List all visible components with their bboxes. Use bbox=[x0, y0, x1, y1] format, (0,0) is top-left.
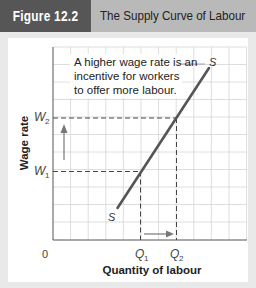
x-axis-label: Quantity of labour bbox=[102, 264, 202, 276]
supply-label-bottom: S bbox=[108, 211, 116, 223]
annotation-line-1: A higher wage rate is an bbox=[74, 56, 197, 68]
q1-tick-label: Q 1 bbox=[135, 247, 149, 263]
origin-label: 0 bbox=[42, 248, 48, 260]
svg-text:1: 1 bbox=[144, 254, 149, 263]
y-axis-label: Wage rate bbox=[18, 116, 30, 171]
svg-text:Q: Q bbox=[170, 247, 179, 261]
annotation-line-2: incentive for workers bbox=[74, 70, 180, 82]
annotation-line-3: to offer more labour. bbox=[74, 84, 177, 96]
w2-tick-label: W 2 bbox=[34, 110, 50, 126]
svg-text:2: 2 bbox=[45, 117, 50, 126]
supply-label-top: S bbox=[209, 56, 217, 68]
supply-curve-chart: A higher wage rate is an incentive for w… bbox=[0, 0, 256, 288]
q2-tick-label: Q 2 bbox=[170, 247, 184, 263]
svg-text:1: 1 bbox=[45, 171, 50, 180]
w1-tick-label: W 1 bbox=[34, 164, 50, 180]
svg-text:2: 2 bbox=[179, 254, 184, 263]
wage-increase-arrow bbox=[61, 124, 68, 160]
svg-text:Q: Q bbox=[135, 247, 144, 261]
